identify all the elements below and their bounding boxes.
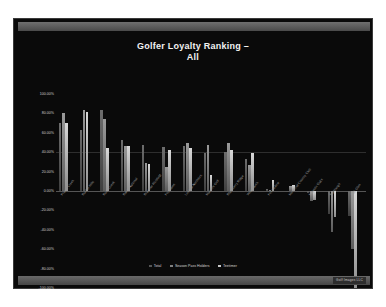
category-label: Majestic Oaks xyxy=(308,178,324,197)
bar xyxy=(86,112,89,191)
y-axis-tick-label: -100.00% xyxy=(39,286,54,290)
legend-label: Teetimer xyxy=(223,264,237,268)
category-label: Fox Hollow xyxy=(267,181,280,196)
bar xyxy=(65,123,68,191)
legend-swatch xyxy=(218,265,221,268)
legend-item[interactable]: Teetimer xyxy=(218,264,236,268)
slide-frame: Golfer Loyalty Ranking – All 100.00%80.0… xyxy=(13,18,373,289)
plot-area: 100.00%80.00%60.00%40.00%20.00%0.00%-20.… xyxy=(14,19,374,290)
bar xyxy=(354,191,357,288)
y-axis-tick-label: 80.00% xyxy=(42,111,54,115)
legend-item[interactable]: Season Pass Holders xyxy=(170,264,209,268)
y-axis-tick-label: 20.00% xyxy=(42,170,54,174)
legend-swatch xyxy=(149,265,152,268)
y-axis-tick-label: -60.00% xyxy=(41,247,54,251)
y-axis-tick-label: 40.00% xyxy=(42,150,54,154)
y-axis-tick-label: -40.00% xyxy=(41,228,54,232)
slide-footer-bar xyxy=(18,276,370,285)
legend-swatch xyxy=(170,265,173,268)
legend-label: Total xyxy=(154,264,162,268)
y-axis-tick-label: -20.00% xyxy=(41,208,54,212)
y-axis-tick-label: 60.00% xyxy=(42,131,54,135)
legend-item[interactable]: Total xyxy=(149,264,161,268)
chart-legend: TotalSeason Pass HoldersTeetimer xyxy=(14,264,372,268)
bar xyxy=(334,191,337,217)
legend-label: Season Pass Holders xyxy=(175,264,210,268)
y-axis-tick-label: 100.00% xyxy=(40,92,54,96)
y-axis-tick-label: 0.00% xyxy=(44,189,54,193)
y-axis: 100.00%80.00%60.00%40.00%20.00%0.00%-20.… xyxy=(14,19,54,290)
watermark-label: Golf Images LLC xyxy=(333,277,366,284)
